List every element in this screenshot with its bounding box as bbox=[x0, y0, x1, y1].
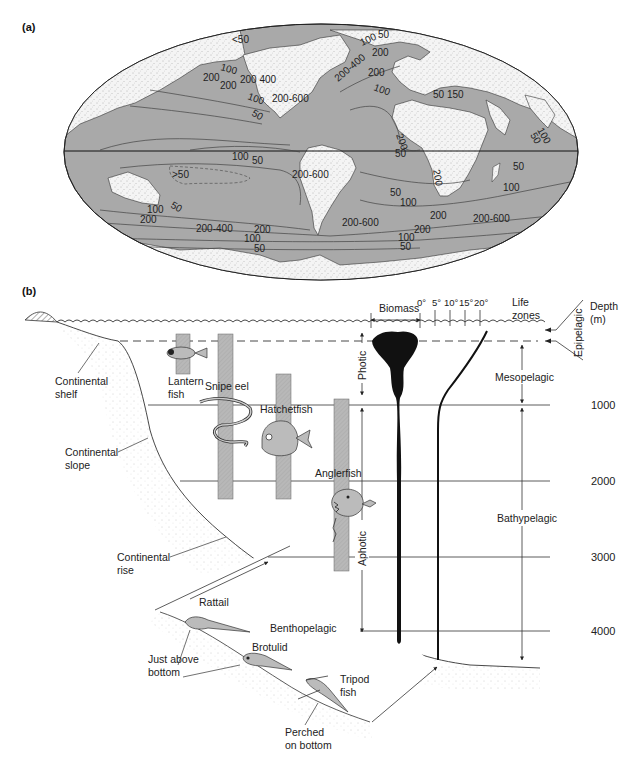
contour-label: 200 bbox=[430, 210, 447, 221]
contour-label: 50 bbox=[254, 243, 266, 254]
contour-label: 50 bbox=[395, 148, 407, 159]
lanternfish-label-1: Lantern bbox=[168, 375, 204, 387]
sea-surface bbox=[57, 320, 545, 322]
contour-label: 200 bbox=[414, 224, 431, 235]
contour-label: 50 bbox=[513, 161, 525, 172]
life-zones-label-1: Life bbox=[512, 296, 529, 308]
contour-label: 200-400 bbox=[196, 223, 233, 234]
depth-2000: 2000 bbox=[591, 475, 615, 487]
snipe-eel-range-bar bbox=[218, 334, 233, 499]
temp-10: 10° bbox=[444, 297, 459, 308]
temp-0: 0° bbox=[417, 297, 426, 308]
depth-3000: 3000 bbox=[591, 551, 615, 563]
biomass-profile bbox=[372, 331, 418, 643]
contour-label: 200-600 bbox=[473, 213, 510, 224]
continental-shelf-label-2: shelf bbox=[55, 388, 77, 400]
panel-b-label: (b) bbox=[22, 285, 36, 297]
temp-20: 20° bbox=[474, 297, 489, 308]
temp-15: 15° bbox=[459, 297, 474, 308]
just-above-bottom-label-1: Just above bbox=[148, 653, 199, 665]
contour-label: 50 bbox=[378, 29, 390, 40]
contour-label: 50 bbox=[400, 241, 412, 252]
panel-a-label: (a) bbox=[22, 21, 36, 33]
hatchetfish: Hatchetfish bbox=[260, 403, 313, 456]
continental-rise-label-1: Continental bbox=[117, 551, 170, 563]
epipelagic-callout: Epipelagic bbox=[545, 300, 584, 360]
contour-label: 200 bbox=[220, 80, 237, 91]
depth-label-2: (m) bbox=[590, 313, 606, 325]
world-map: <50100200200200 400100200-60050501002002… bbox=[60, 24, 600, 290]
rattail-label: Rattail bbox=[199, 596, 229, 608]
continental-shelf-label-1: Continental bbox=[55, 375, 108, 387]
photic-label: Photic bbox=[356, 351, 368, 380]
perched-on-bottom-label-1: Perched bbox=[285, 726, 324, 738]
mesopelagic-label: Mesopelagic bbox=[495, 371, 554, 383]
temperature-profile bbox=[438, 331, 487, 660]
continental-rise-label-2: rise bbox=[117, 564, 134, 576]
tripod-fish-label-1: Tripod bbox=[340, 673, 370, 685]
contour-label: 200-600 bbox=[292, 169, 329, 180]
perched-on-bottom-label-2: on bottom bbox=[285, 739, 332, 751]
benthopelagic-label: Benthopelagic bbox=[270, 622, 337, 634]
contour-label: 100 bbox=[503, 182, 520, 193]
light-zone-axis: Photic Aphotic bbox=[355, 333, 369, 632]
depth-axis: 1000 2000 3000 4000 bbox=[591, 399, 615, 637]
biomass-header: Biomass bbox=[371, 302, 420, 328]
shore-hatch bbox=[25, 312, 57, 322]
life-zones-label-2: zones bbox=[512, 309, 540, 321]
epipelagic-label: Epipelagic bbox=[572, 309, 584, 357]
depth-4000: 4000 bbox=[591, 625, 615, 637]
aphotic-label: Aphotic bbox=[356, 531, 368, 566]
contour-label: 200 bbox=[368, 67, 385, 78]
anglerfish-range-bar bbox=[334, 399, 349, 571]
hatchetfish-label: Hatchetfish bbox=[260, 403, 313, 415]
contour-label: 200 400 bbox=[240, 74, 277, 85]
tripod-fish-label-2: fish bbox=[340, 686, 357, 698]
contour-label: 200-600 bbox=[272, 93, 309, 104]
contour-label: >50 bbox=[172, 169, 189, 180]
temperature-scale: 0° 5° 10° 15° 20° bbox=[417, 297, 489, 326]
just-above-bottom-label-2: bottom bbox=[148, 666, 180, 678]
bathypelagic-label: Bathypelagic bbox=[497, 512, 557, 524]
depth-1000: 1000 bbox=[591, 399, 615, 411]
contour-label: 200 bbox=[203, 72, 220, 83]
continental-slope-label-2: slope bbox=[65, 459, 90, 471]
contour-label: 200-600 bbox=[342, 217, 379, 228]
contour-label: 100 bbox=[400, 197, 417, 208]
contour-label: 100 bbox=[232, 151, 249, 162]
depth-label-1: Depth bbox=[590, 300, 618, 312]
continental-slope-label-1: Continental bbox=[65, 446, 118, 458]
biomass-label: Biomass bbox=[379, 302, 419, 314]
lanternfish-label-2: fish bbox=[168, 388, 185, 400]
snipe-eel-label: Snipe eel bbox=[205, 380, 249, 392]
temp-5: 5° bbox=[432, 297, 441, 308]
contour-label: 200 bbox=[140, 214, 157, 225]
anglerfish-label: Anglerfish bbox=[315, 467, 362, 479]
brotulid-label: Brotulid bbox=[252, 641, 288, 653]
figure: (a) bbox=[0, 0, 632, 761]
contour-label: <50 bbox=[232, 34, 249, 45]
contour-label: 50 bbox=[252, 155, 264, 166]
contour-label: 200 bbox=[372, 47, 389, 58]
contour-label: 50 150 bbox=[433, 89, 464, 100]
